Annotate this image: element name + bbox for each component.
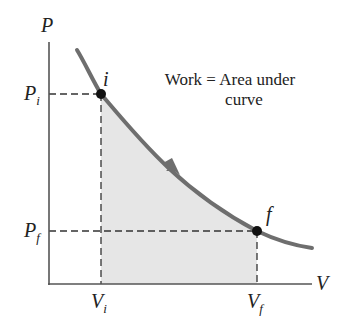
pressure-initial-label: Pi bbox=[24, 82, 40, 109]
point-f-label: f bbox=[266, 203, 272, 226]
work-annotation: Work = Area under curve bbox=[138, 70, 322, 110]
work-annotation-line2: curve bbox=[138, 90, 322, 110]
point-i-label: i bbox=[103, 68, 109, 91]
volume-final-label: Vf bbox=[247, 290, 263, 317]
x-axis-label: V bbox=[316, 272, 328, 295]
work-annotation-line1: Work = Area under bbox=[138, 70, 322, 90]
point-f-marker bbox=[252, 226, 262, 236]
pv-diagram bbox=[0, 0, 346, 331]
pressure-final-label: Pf bbox=[24, 219, 40, 246]
volume-initial-label: Vi bbox=[91, 290, 107, 317]
y-axis-label: P bbox=[41, 14, 53, 37]
